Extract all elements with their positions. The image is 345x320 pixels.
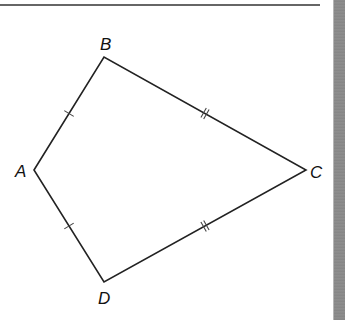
vertex-label-b: B bbox=[100, 35, 111, 54]
vertex-label-c: C bbox=[310, 163, 323, 182]
vertex-label-a: A bbox=[14, 162, 26, 181]
quadrilateral-abcd bbox=[34, 57, 306, 282]
kite-diagram: A B C D bbox=[0, 0, 345, 320]
congruence-tick-marks bbox=[64, 108, 209, 232]
tick-mark-da bbox=[64, 223, 73, 229]
page-edge-strip bbox=[333, 0, 345, 320]
tick-mark-ab bbox=[64, 111, 73, 117]
vertex-label-d: D bbox=[98, 289, 110, 308]
